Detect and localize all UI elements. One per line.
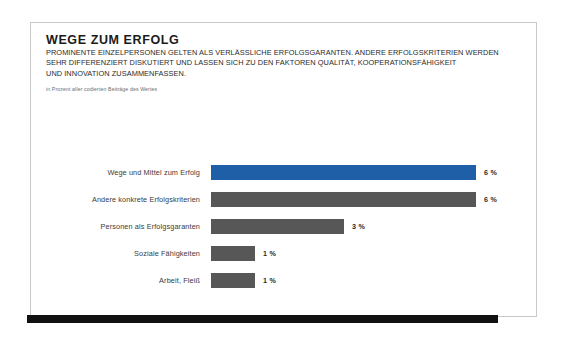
slide-card: WEGE ZUM ERFOLG PROMINENTE EINZELPERSONE… xyxy=(30,22,537,317)
value-label-3: 1 % xyxy=(263,246,276,261)
bar-track: 1 % xyxy=(211,273,536,288)
chart-row: Personen als Erfolgsgaranten 3 % xyxy=(31,219,536,234)
subtitle-line-1: PROMINENTE EINZELPERSONEN GELTEN ALS VER… xyxy=(46,48,524,58)
chart-row: Soziale Fähigkeiten 1 % xyxy=(31,246,536,261)
chart-row: Arbeit, Fleiß 1 % xyxy=(31,273,536,288)
chart-row: Andere konkrete Erfolgskriterien 6 % xyxy=(31,192,536,207)
category-label: Personen als Erfolgsgaranten xyxy=(31,219,211,234)
slide-header: WEGE ZUM ERFOLG PROMINENTE EINZELPERSONE… xyxy=(46,33,524,93)
value-label-0: 6 % xyxy=(484,165,497,180)
category-label: Arbeit, Fleiß xyxy=(31,273,211,288)
value-label-1: 6 % xyxy=(484,192,497,207)
bar-track: 6 % xyxy=(211,192,536,207)
bar-track: 1 % xyxy=(211,246,536,261)
bar-0 xyxy=(211,165,476,180)
bar-1 xyxy=(211,192,476,207)
page-title: WEGE ZUM ERFOLG xyxy=(46,33,524,47)
subtitle-line-2: SEHR DIFFERENZIERT DISKUTIERT UND LASSEN… xyxy=(46,58,524,68)
category-label: Andere konkrete Erfolgskriterien xyxy=(31,192,211,207)
value-label-4: 1 % xyxy=(263,273,276,288)
bar-3 xyxy=(211,246,255,261)
slide-subtitle: PROMINENTE EINZELPERSONEN GELTEN ALS VER… xyxy=(46,48,524,79)
category-label: Wege und Mittel zum Erfolg xyxy=(31,165,211,180)
bar-track: 6 % xyxy=(211,165,536,180)
bar-4 xyxy=(211,273,255,288)
bar-track: 3 % xyxy=(211,219,536,234)
chart-note: in Prozent aller codierten Beiträge des … xyxy=(46,86,524,93)
chart-row: Wege und Mittel zum Erfolg 6 % xyxy=(31,165,536,180)
bar-chart: Wege und Mittel zum Erfolg 6 % Andere ko… xyxy=(31,165,536,288)
category-label: Soziale Fähigkeiten xyxy=(31,246,211,261)
bar-2 xyxy=(211,219,344,234)
bottom-accent-band xyxy=(27,315,498,323)
subtitle-line-3: UND INNOVATION ZUSAMMENFASSEN. xyxy=(46,69,524,79)
value-label-2: 3 % xyxy=(352,219,365,234)
